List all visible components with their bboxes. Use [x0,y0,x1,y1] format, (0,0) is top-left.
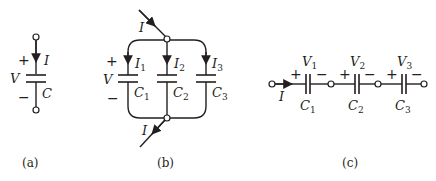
capacitor-label: C [42,86,52,101]
capacitor-circuit-figure: + − V I C (a) I I1 C1 I2 C2 [0,0,436,181]
i1-label: I1 [134,56,146,73]
c2-label: C2 [173,85,189,102]
c1-label: C1 [300,98,316,115]
v1-label: V1 [302,54,317,71]
panel-c-series-capacitors: I + − V1 C1 + − V2 C2 + − V3 C3 (c) [269,54,427,170]
current-in-label: I [138,20,145,35]
top-node [164,36,170,42]
v3-label: V3 [397,54,412,71]
i2-label: I2 [173,56,185,73]
plus-sign: + [18,52,30,68]
minus-sign: − [18,89,30,105]
caption-a: (a) [22,156,39,170]
panel-a-single-capacitor: + − V I C (a) [10,34,52,170]
v2-label: V2 [350,54,365,71]
terminal-top [33,34,39,40]
current-label: I [43,53,50,68]
terminal-3 [375,81,381,87]
caption-b: (b) [157,156,174,170]
current-out-label: I [141,123,148,138]
voltage-label: V [10,71,21,86]
minus-sign: − [107,90,119,106]
c2-label: C2 [348,98,364,115]
terminal-1 [269,81,275,87]
terminal-2 [328,81,334,87]
caption-c: (c) [342,156,358,170]
panel-b-parallel-capacitors: I I1 C1 I2 C2 I3 C3 + − V [103,10,228,170]
c1-minus-sign: − [316,66,328,82]
c3-label: C3 [395,98,411,115]
terminal-bottom [33,107,39,113]
c1-plus-sign: + [290,66,302,82]
voltage-label: V [103,72,114,87]
c2-minus-sign: − [364,66,376,82]
current-label: I [278,89,285,104]
c2-plus-sign: + [339,66,351,82]
c3-label: C3 [212,85,228,102]
i3-label: I3 [211,56,223,73]
current-out-arrow-icon [152,120,165,134]
c3-minus-sign: − [411,66,423,82]
plus-sign: + [106,53,118,69]
c1-label: C1 [134,85,150,102]
c3-plus-sign: + [386,66,398,82]
